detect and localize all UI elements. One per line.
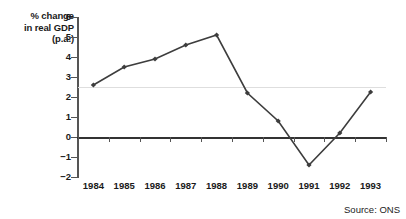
data-series-layer	[0, 0, 406, 219]
gdp-series-markers	[91, 32, 373, 167]
data-point-1986	[152, 56, 157, 61]
gdp-growth-line-chart: % change in real GDP (p.a.) 6543210−1−2 …	[0, 0, 406, 219]
gdp-series-line	[93, 35, 370, 165]
data-point-1987	[183, 42, 188, 47]
source-note: Source: ONS	[344, 204, 400, 215]
